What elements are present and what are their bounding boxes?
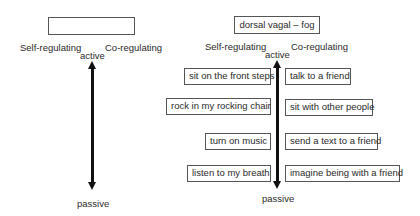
left-active-label: active: [80, 50, 105, 61]
left-co-regulating-label: Co-regulating: [105, 42, 162, 53]
co-item: talk to a friend: [285, 68, 351, 85]
left-passive-label: passive: [77, 198, 109, 209]
right-self-regulating-label: Self-regulating: [205, 41, 266, 52]
right-passive-label: passive: [262, 193, 294, 204]
arrow-down-icon: [88, 182, 96, 190]
self-item: rock in my rocking chair: [166, 98, 271, 115]
right-active-label: active: [265, 49, 290, 60]
left-title-box: [48, 17, 135, 35]
left-self-regulating-label: Self-regulating: [20, 42, 81, 53]
right-co-regulating-label: Co-regulating: [291, 41, 348, 52]
self-item: turn on music: [205, 133, 271, 150]
self-item: sit on the front steps: [184, 68, 271, 85]
right-title-box: dorsal vagal – fog: [234, 16, 320, 34]
co-item: sit with other people: [285, 99, 373, 116]
self-item: listen to my breath: [187, 165, 271, 182]
co-item: imagine being with a friend: [285, 165, 400, 182]
arrow-down-icon: [273, 181, 281, 189]
co-item: send a text to a friend: [285, 133, 378, 150]
